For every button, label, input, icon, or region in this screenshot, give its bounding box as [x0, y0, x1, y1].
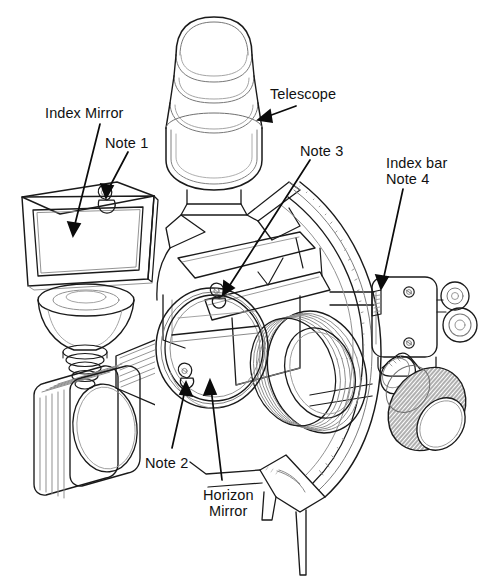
sextant-diagram: Index Mirror Note 1 Telescope Note 3 Ind… — [0, 0, 495, 582]
label-index-mirror: Index Mirror — [45, 105, 124, 122]
index-bar-part — [372, 277, 477, 376]
label-note-3: Note 3 — [300, 143, 343, 160]
label-horizon-mirror-line2: Mirror — [209, 503, 247, 520]
leader-note-2 — [172, 390, 185, 448]
label-horizon-mirror: Horizon — [203, 487, 254, 504]
label-telescope: Telescope — [270, 86, 336, 103]
leader-index-bar — [383, 189, 403, 281]
label-index-bar: Index bar — [386, 155, 447, 172]
shade-filters-part — [34, 338, 178, 498]
label-note-1: Note 1 — [105, 135, 148, 152]
leader-horizon-mirror — [211, 388, 222, 480]
leader-index-mirror — [74, 124, 100, 228]
index-mirror-part — [22, 182, 158, 290]
micrometer-drum-part — [372, 349, 481, 465]
index-mirror-base-part — [38, 284, 134, 389]
telescope-part — [166, 17, 262, 215]
label-note-2: Note 2 — [145, 455, 188, 472]
label-note-4: Note 4 — [386, 171, 429, 188]
